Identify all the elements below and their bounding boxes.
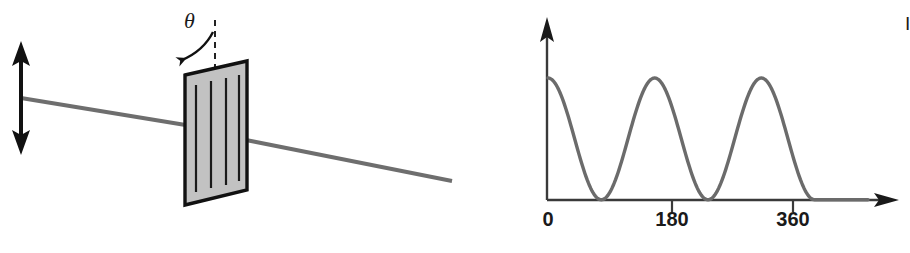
polarizer-diagram-svg xyxy=(0,0,460,253)
intensity-curve xyxy=(548,78,868,200)
x-axis-ticks xyxy=(672,200,793,212)
polarization-figure: θ Intensity 0 180 360 θ/° xyxy=(0,0,910,253)
transmitted-beam xyxy=(246,140,452,181)
y-axis xyxy=(540,17,554,200)
theta-angle-label: θ xyxy=(184,8,195,34)
polarizer-diagram: θ xyxy=(0,0,460,253)
polarizer-plate xyxy=(185,61,247,205)
x-tick-label-360: 360 xyxy=(776,208,809,231)
y-axis-label: Intensity xyxy=(905,13,910,35)
x-tick-label-180: 180 xyxy=(655,208,688,231)
x-tick-label-0: 0 xyxy=(542,208,553,231)
intensity-vs-angle-plot: Intensity 0 180 360 θ/° xyxy=(450,0,910,253)
rotation-arrow xyxy=(182,32,213,60)
